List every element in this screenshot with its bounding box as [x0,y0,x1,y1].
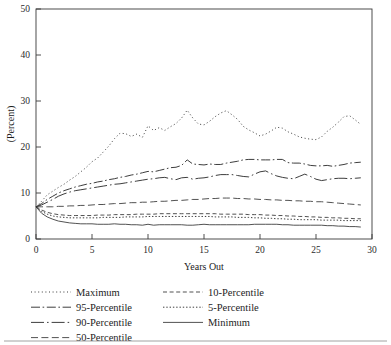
y-tick-label: 0 [25,234,30,244]
legend-label-95-percentile: 95-Percentile [76,302,132,313]
x-tick-label: 10 [143,245,153,255]
chart-figure: 01020304050 051015202530 (Percent) Years… [0,0,391,345]
y-tick-label: 30 [21,96,31,106]
chart-background [0,0,391,345]
y-tick-label: 50 [21,4,31,14]
y-axis-title: (Percent) [5,106,17,143]
y-tick-label: 20 [21,142,31,152]
x-tick-label: 30 [367,245,377,255]
legend-label-maximum: Maximum [76,287,120,298]
legend-label-10-percentile: 10-Percentile [208,287,264,298]
legend-label-50-percentile: 50-Percentile [76,332,132,343]
percentile-line-chart: 01020304050 051015202530 (Percent) Years… [0,0,391,345]
legend-label-minimum: Minimum [208,317,250,328]
legend-label-90-percentile: 90-Percentile [76,317,132,328]
x-tick-label: 0 [34,245,39,255]
x-tick-label: 15 [199,245,209,255]
y-tick-label: 10 [21,188,31,198]
y-tick-label: 40 [21,50,31,60]
x-tick-label: 5 [90,245,95,255]
legend-label-5-percentile: 5-Percentile [208,302,259,313]
x-tick-label: 20 [255,245,265,255]
x-axis-title: Years Out [184,261,224,272]
x-tick-label: 25 [311,245,321,255]
